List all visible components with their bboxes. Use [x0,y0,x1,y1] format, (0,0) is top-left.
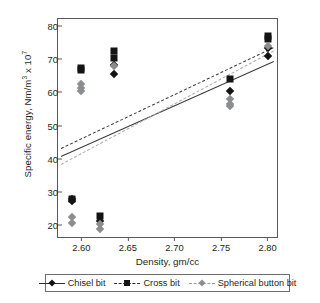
y-axis-tick-40: 40 [24,153,58,164]
y-axis-tick-mark [58,192,62,193]
data-point [110,70,118,78]
y-axis-tick-50: 50 [24,120,58,131]
x-axis-title: Density, gm/cc [57,256,278,267]
diamond-icon [48,279,55,286]
data-point [68,219,76,227]
y-axis-tick-30: 30 [24,187,58,198]
y-axis-tick-70: 70 [24,53,58,64]
x-axis-tick-2.65: 2.65 [119,237,137,253]
legend-item-cross-bit[interactable]: Cross bit [114,278,179,288]
trend-line-cross-bit [61,47,274,149]
y-axis-title-exp-m: 3 [21,76,28,80]
x-axis-tick-mark [221,237,222,241]
data-point [68,196,75,203]
x-axis-tick-mark [81,237,82,241]
y-axis-tick-mark [58,125,62,126]
x-axis-tick-2.80: 2.80 [259,237,277,253]
legend-item-chisel-bit[interactable]: Chisel bit [39,278,106,288]
data-point [110,54,117,61]
x-axis-tick-2.70: 2.70 [165,237,183,253]
y-axis-tick-60: 60 [24,87,58,98]
data-point [227,76,234,83]
plot-area: 203040506070802.602.652.702.752.80 [57,18,278,238]
x-axis-tick-2.60: 2.60 [72,237,90,253]
x-axis-tick-mark [267,237,268,241]
chart-figure: Specific energy, Nm/m3 x 107 20304050607… [0,0,320,303]
chart-legend: Chisel bit Cross bit Spherical button bi… [45,274,290,292]
y-axis-tick-mark [58,158,62,159]
data-point [226,86,234,94]
legend-key-spherical-button-bit [189,279,215,288]
y-axis-tick-mark [58,92,62,93]
data-point [78,65,85,72]
y-axis-tick-20: 20 [24,220,58,231]
legend-item-spherical-button-bit[interactable]: Spherical button bit [189,278,297,288]
x-axis-tick-2.75: 2.75 [212,237,230,253]
legend-key-cross-bit [114,279,140,288]
legend-label-spherical-button-bit: Spherical button bit [218,278,297,288]
y-axis-tick-mark [58,25,62,26]
legend-key-chisel-bit [39,279,65,288]
trend-line-chisel-bit [61,61,274,157]
x-axis-tick-mark [127,237,128,241]
diamond-gray-icon [198,279,205,286]
y-axis-tick-mark [58,225,62,226]
x-axis-tick-mark [174,237,175,241]
legend-label-cross-bit: Cross bit [143,278,179,288]
y-axis-tick-80: 80 [24,20,58,31]
y-axis-tick-mark [58,58,62,59]
legend-label-chisel-bit: Chisel bit [68,278,106,288]
data-point [110,47,117,54]
trend-line-spherical-button-bit [61,50,274,164]
square-icon [124,280,130,286]
